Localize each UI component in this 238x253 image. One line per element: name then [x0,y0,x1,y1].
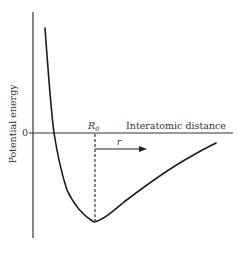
y-axis-label: Potential energy [7,84,18,164]
x-axis-label: Interatomic distance [126,120,226,131]
displacement-label: r [117,136,123,147]
zero-label: 0 [22,127,28,138]
equilibrium-label: R0 [87,120,99,133]
arrow-head-icon [139,146,147,152]
equilibrium-label-subscript: 0 [95,125,99,133]
equilibrium-label-main: R [87,120,95,131]
potential-energy-diagram: 0 Potential energy Interatomic distance … [0,0,238,253]
